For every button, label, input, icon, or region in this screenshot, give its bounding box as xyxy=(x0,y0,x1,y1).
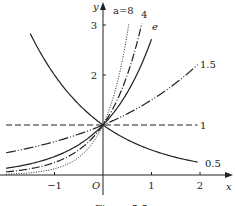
series-label: 1 xyxy=(200,120,206,131)
x-axis-label: x xyxy=(226,181,232,192)
x-axis-arrow-icon xyxy=(225,172,233,178)
y-axis-arrow-icon xyxy=(100,2,106,10)
y-tick-label: 3 xyxy=(91,20,97,31)
curves xyxy=(6,23,198,174)
axes xyxy=(0,2,233,195)
series-label: 1.5 xyxy=(200,59,216,70)
x-tick-label: 1 xyxy=(148,180,154,191)
series-label: 0.5 xyxy=(205,158,221,169)
curve-a-8 xyxy=(6,24,129,174)
series-labels: a=84e1.510.5 xyxy=(113,5,221,169)
x-tick-label: −1 xyxy=(47,180,62,191)
origin-label: O xyxy=(92,180,100,191)
x-tick-label: 2 xyxy=(197,180,203,191)
curve-1-5 xyxy=(6,65,198,153)
curve-4 xyxy=(6,23,142,171)
exponential-chart: −11223 x y O a=84e1.510.5 Figure 5.5 xyxy=(0,0,235,206)
series-label: 4 xyxy=(141,9,147,20)
series-label: e xyxy=(152,21,158,32)
y-axis-label: y xyxy=(92,1,99,12)
y-tick-label: 2 xyxy=(91,70,97,81)
curve-0-5 xyxy=(30,34,197,162)
series-label: a=8 xyxy=(113,5,134,16)
figure-caption: Figure 5.5 xyxy=(95,203,148,206)
ticks: −11223 xyxy=(47,20,203,191)
